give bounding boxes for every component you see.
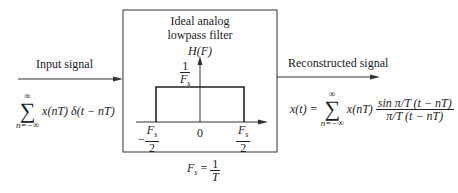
reconstructed-signal-label: Reconstructed signal [288,57,388,69]
input-signal-label: Input signal [36,58,93,70]
filter-title-line1: Ideal analog [123,15,277,27]
tick-center: 0 [197,127,203,139]
axis-label-hf: H(F) [188,45,212,57]
sampling-relation: Fs = 1T [187,158,220,183]
tick-left: − Fs 2 [138,124,159,154]
gain-label: 1 Fs [180,60,190,90]
input-signal-formula: ∞ ∑ n=−∞ x(nT) δ(t − nT) [16,92,115,130]
tick-right: Fs 2 [236,124,250,154]
reconstruction-formula: x(t) = ∞ ∑ n=−∞ x(nT) sin π/T (t − nT) π… [290,90,454,128]
filter-title-line2: lowpass filter [123,29,277,41]
